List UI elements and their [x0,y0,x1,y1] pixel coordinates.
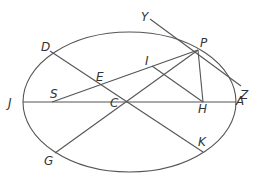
line-ih [152,66,203,102]
label-s: S [50,87,58,101]
label-d: D [41,40,50,54]
label-i: I [145,54,149,68]
label-h: H [198,102,207,116]
label-c: C [110,96,119,110]
tangent-line-yz [150,19,241,86]
label-y: Y [141,10,150,24]
label-e: E [96,70,104,84]
label-a: A [235,94,244,108]
ellipse-diagram: Y P Z D E I J S C H A G K [0,0,259,180]
label-j: J [6,96,12,110]
label-k: K [198,135,207,149]
label-g: G [44,154,53,168]
label-p: P [200,36,208,50]
line-sp [52,50,198,102]
